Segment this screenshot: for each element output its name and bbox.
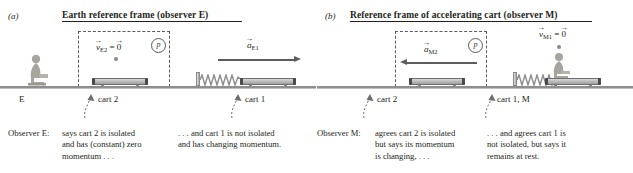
cart-2-graphic [409,78,465,85]
acceleration-label-cart1: →aE1 [247,41,259,52]
caption-observer-e-left: says cart 2 is isolated and has (constan… [62,128,167,162]
cart-bumper-left [240,78,243,85]
panel-b: (b) Reference frame of accelerating cart… [317,0,633,173]
cart-1-graphic [240,78,296,85]
vector-v-symbol: →v [96,43,100,52]
caption-observer-e-who: Observer E: [8,128,49,139]
panel-a-letter: (a) [8,11,19,21]
cart-bumper-left [545,78,548,85]
track-shadow [0,88,316,89]
cart-bumper-right [462,78,465,85]
zero-vector: →0 [117,43,122,52]
tag-cart-2: cart 2 [98,94,118,104]
acceleration-label-cart2: →aM2 [424,45,438,56]
vector-hat-icon: → [94,37,102,45]
acceleration-arrow-head-cart2 [400,59,407,65]
acceleration-arrow-shaft-cart1 [218,59,296,61]
cart-bumper-left [92,78,95,85]
cart-1-graphic [545,78,601,85]
leader-line-cart2 [355,92,375,118]
panel-b-letter: (b) [325,11,336,21]
cart-bumper-right [598,78,601,85]
zero-vector: →0 [562,30,567,39]
caption-observer-e-right: . . . and cart 1 is not isolated and has… [178,128,318,151]
momentum-marker-p: p [151,38,166,53]
spring-coil-icon [200,74,242,86]
vector-hat-icon: → [422,39,430,47]
momentum-marker-p: p [468,38,483,53]
particle-dot-cart2 [114,57,118,61]
vector-hat-icon: → [537,24,545,32]
caption-observer-m-who: Observer M: [317,128,361,139]
vector-subscript: M2 [429,48,438,55]
observer-e-label: E [19,94,25,104]
panel-b-title-underline [350,21,592,22]
vector-subscript: E1 [252,44,259,51]
vector-v-symbol: →v [539,30,543,39]
panel-a: (a) Earth reference frame (observer E) →… [0,0,316,173]
vector-subscript: E2 [100,46,107,53]
vector-subscript: M1 [543,33,552,40]
observer-e-figure [24,54,50,88]
equals-sign: = [109,42,114,52]
tag-cart-1: cart 1 [245,94,265,104]
velocity-label-cart2: →vE2 = →0 [96,43,121,54]
vector-a-symbol: →a [247,41,252,50]
panel-a-title: Earth reference frame (observer E) [62,10,208,20]
acceleration-arrow-head-cart1 [294,56,301,62]
tag-cart-1-m: cart 1, M [497,94,530,104]
vector-hat-icon: → [560,24,568,32]
leader-line-cart1 [223,92,243,118]
leader-line-cart2 [76,92,96,118]
physics-figure: (a) Earth reference frame (observer E) →… [0,0,633,173]
leader-line-cart1 [477,92,497,118]
cart-2-graphic [92,78,148,85]
observer-m-figure [547,52,573,80]
caption-observer-m-right: . . . and agrees cart 1 is not isolated,… [487,128,617,162]
velocity-label-cart1: →vM1 = →0 [539,30,566,41]
acceleration-arrow-shaft-cart2 [407,62,477,64]
track-shadow [317,88,633,89]
cart-bumper-right [293,78,296,85]
equals-sign: = [554,29,559,39]
cart-bumper-right [145,78,148,85]
panel-b-title: Reference frame of accelerating cart (ob… [350,10,558,20]
vector-a-symbol: →a [424,45,429,54]
vector-hat-icon: → [115,37,123,45]
tag-cart-2: cart 2 [377,94,397,104]
panel-a-title-underline [62,21,242,22]
cart-bumper-left [409,78,412,85]
vector-hat-icon: → [245,35,253,43]
caption-observer-m-left: agrees cart 2 is isolated but says its m… [375,128,480,162]
particle-dot-cart1 [557,45,561,49]
